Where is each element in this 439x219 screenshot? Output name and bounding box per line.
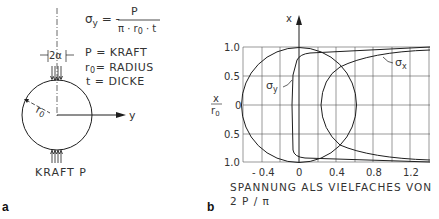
y-axis-arrow-icon [116,112,126,118]
panel-a-label: a [2,200,9,214]
x-tick-labels: - 0.4 0 0.4 0.8 1.2 [252,167,419,178]
formula-numerator: P [131,5,138,18]
x-axis-title-line2: 2 P / π [230,195,270,207]
svg-text:r0: r0 [211,105,220,118]
radius-label: r0 [33,103,48,120]
svg-text:0.8: 0.8 [366,167,382,178]
symbol-legend: P = KRAFT r0= RADIUS t = DICKE [85,46,154,88]
svg-text:x: x [213,93,219,104]
svg-text:σy = -: σy = - [85,12,120,28]
y-axis-title: x r0 [211,93,222,118]
svg-text:0: 0 [235,100,241,111]
svg-text:1.0: 1.0 [224,42,240,53]
top-load-arrows [51,66,63,81]
sigma-x-leader [383,57,393,63]
x-axis-label: x [286,13,292,24]
svg-text:π · r0 · t: π · r0 · t [118,23,156,36]
sigma-y-curve [292,47,430,162]
x-axis-title-line1: SPANNUNG ALS VIELFACHES VON [230,181,432,193]
legend-thickness: t = DICKE [86,75,145,88]
bottom-load-arrows [51,150,63,163]
panel-b-label: b [207,200,214,214]
panel-a-disk-diagram: y r0 2α [2,5,160,214]
panel-b-stress-chart: x σy σx 1.0 0.5 0 0.5 1.0 x r0 - 0.4 0 [207,13,432,214]
x-axis-arrow-icon [296,15,302,25]
y-tick-labels: 1.0 0.5 0 0.5 1.0 [224,42,241,168]
sigma-x-label: σx [395,56,407,71]
svg-text:1.2: 1.2 [403,167,419,178]
svg-text:0.5: 0.5 [224,129,240,140]
legend-radius: r0= RADIUS [85,61,154,75]
angle-label: 2α [49,50,62,61]
svg-text:0.4: 0.4 [329,167,345,178]
svg-text:0.5: 0.5 [224,71,240,82]
y-axis-label: y [129,109,136,122]
stress-formula: σy = - P π · r0 · t [85,5,160,36]
sigma-y-leader [283,80,292,87]
sigma-y-label: σy [266,79,278,94]
svg-text:1.0: 1.0 [224,157,240,168]
legend-force: P = KRAFT [85,46,147,59]
force-label: KRAFT P [35,166,87,179]
svg-text:- 0.4: - 0.4 [252,167,275,178]
svg-text:0: 0 [296,167,302,178]
